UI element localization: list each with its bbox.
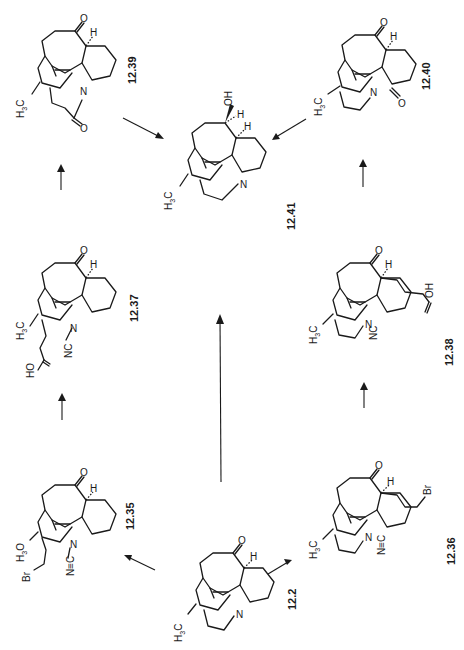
nitrogen-atom: N: [70, 539, 77, 550]
compound-12-38: O H OH N NC H3C 12.38: [308, 245, 455, 366]
hydrogen-atom: H: [244, 121, 251, 132]
oxygen-atom: O: [80, 245, 88, 256]
arrow-12-39-to-12-41: [123, 118, 164, 139]
hydrogen-atom: H: [90, 483, 97, 494]
hydrogen-atom: H: [90, 27, 97, 38]
arrow-12-35-to-12-37: [58, 393, 66, 420]
arrow-12-36-to-12-38: [360, 382, 368, 408]
hydrogen-atom: H: [90, 259, 97, 270]
compound-label-12-39: 12.39: [126, 56, 138, 84]
nitrogen-atom: N: [236, 609, 243, 620]
svg-text:H3C: H3C: [313, 98, 326, 116]
hydrogen-atom: H: [237, 109, 244, 120]
hydrogen-atom: H: [385, 259, 392, 270]
arrow-12-38-to-12-40: [359, 159, 367, 187]
compound-12-39: O H N O H3C 12.39: [15, 13, 138, 134]
arrow-12-2-to-12-36: [268, 559, 292, 574]
hydrogen-atom: H: [250, 551, 257, 562]
isocyanide-group: N≡C: [65, 556, 76, 576]
svg-text:H3C: H3C: [163, 192, 176, 210]
compound-12-40: O H N O H3C 12.40: [313, 17, 432, 116]
svg-text:H3C: H3C: [173, 624, 186, 642]
compound-12-2: O H N H3C 12.2: [173, 535, 298, 642]
hydroxyl-group: OH: [424, 283, 435, 298]
arrow-12-37-to-12-39: [57, 164, 65, 190]
compound-12-37: O H N NC HO H3C 12.37: [15, 245, 140, 378]
nitrogen-atom: N: [365, 532, 372, 543]
nitrogen-atom: N: [370, 87, 377, 98]
compound-label-12-36: 12.36: [445, 537, 457, 565]
svg-text:H3C: H3C: [15, 100, 28, 118]
oxygen-atom: O: [398, 98, 406, 109]
nitrogen-atom: N: [80, 86, 87, 97]
compound-12-35: O H N N≡C Br H3O 12.35: [15, 467, 136, 582]
compound-label-12-41: 12.41: [285, 202, 297, 230]
isocyanide-group: N≡C: [376, 535, 387, 555]
oxygen-atom: O: [80, 13, 88, 24]
isocyanide-group: NC: [63, 344, 74, 358]
bromine-atom: Br: [422, 484, 433, 495]
oxygen-atom: O: [238, 535, 246, 546]
svg-text:H3C: H3C: [15, 322, 28, 340]
arrow-12-2-to-12-41: [216, 314, 224, 482]
nitrogen-atom: N: [240, 179, 247, 190]
compound-label-12-2: 12.2: [286, 589, 298, 610]
hydroxyl-group: OH: [223, 91, 234, 106]
arrow-12-40-to-12-41: [272, 119, 306, 140]
compound-label-12-40: 12.40: [420, 62, 432, 90]
compound-label-12-35: 12.35: [124, 502, 136, 530]
hydroxyl-group: HO: [25, 363, 36, 378]
svg-text:H3O: H3O: [15, 543, 28, 562]
hydrogen-atom: H: [387, 476, 394, 487]
reaction-scheme: O H N O H3C 12.39 O H N O H3C 12.40 OH: [0, 0, 464, 650]
oxygen-atom: O: [80, 123, 88, 134]
oxygen-atom: O: [80, 467, 88, 478]
svg-text:H3C: H3C: [308, 326, 321, 344]
arrow-12-2-to-12-35: [124, 555, 155, 570]
compound-label-12-37: 12.37: [128, 294, 140, 322]
bromine-atom: Br: [21, 571, 32, 582]
oxygen-atom: O: [375, 460, 383, 471]
compound-label-12-38: 12.38: [443, 338, 455, 366]
compound-12-41: OH H H N H3C 12.41: [163, 91, 297, 230]
oxygen-atom: O: [380, 17, 388, 28]
oxygen-atom: O: [375, 245, 383, 256]
compound-12-36: O H Br N N≡C H3C 12.36: [308, 460, 457, 565]
hydrogen-atom: H: [390, 31, 397, 42]
svg-text:H3C: H3C: [308, 541, 321, 559]
isocyanide-group: NC: [368, 326, 379, 340]
